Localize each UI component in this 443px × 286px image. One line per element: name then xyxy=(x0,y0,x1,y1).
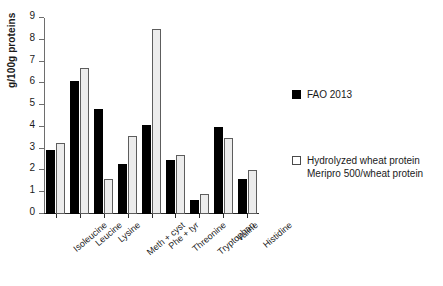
bar xyxy=(238,179,247,214)
bar xyxy=(118,164,127,214)
bar-chart-figure: g/100g proteins 0123456789 IsoleucineLeu… xyxy=(0,0,443,286)
y-tick-label: 2 xyxy=(29,162,35,173)
x-axis-label-7: Valine xyxy=(235,220,260,243)
bar-group xyxy=(163,18,187,214)
y-axis-title: g/100g proteins xyxy=(6,0,17,88)
y-tick-label: 0 xyxy=(29,206,35,217)
y-tick-label: 3 xyxy=(29,141,35,152)
bar xyxy=(128,136,137,214)
bar xyxy=(190,200,199,214)
x-tick-6 xyxy=(199,214,200,218)
y-tick-label: 5 xyxy=(29,97,35,108)
x-tick-0 xyxy=(56,214,57,218)
plot-area: 0123456789 xyxy=(44,18,259,214)
x-tick-4 xyxy=(152,214,153,218)
bar-group xyxy=(187,18,211,214)
x-tick-5 xyxy=(175,214,176,218)
legend-swatch-open-square-icon xyxy=(292,156,301,165)
legend-swatch-filled-square-icon xyxy=(292,90,301,99)
bar xyxy=(56,143,65,214)
x-tick-7 xyxy=(223,214,224,218)
x-axis-label-8: Histidine xyxy=(261,220,294,250)
bar-group xyxy=(68,18,92,214)
bar-group xyxy=(44,18,68,214)
bar xyxy=(200,194,209,214)
y-tick-label: 7 xyxy=(29,54,35,65)
legend-label-line1: FAO 2013 xyxy=(307,88,352,101)
bar-series-container xyxy=(44,18,259,214)
bar-group xyxy=(235,18,259,214)
bar xyxy=(104,179,113,214)
bar xyxy=(176,155,185,214)
bar xyxy=(46,150,55,214)
bar xyxy=(166,160,175,214)
x-tick-3 xyxy=(128,214,129,218)
bar xyxy=(70,81,79,214)
bar-group xyxy=(140,18,164,214)
legend-label-fao-2013: FAO 2013 xyxy=(307,88,352,101)
y-tick-label: 1 xyxy=(29,184,35,195)
x-tick-8 xyxy=(247,214,248,218)
y-tick-label: 4 xyxy=(29,119,35,130)
bar xyxy=(248,170,257,214)
legend-item-hydrolyzed-wheat-protein: Hydrolyzed wheat protein Meripro 500/whe… xyxy=(292,154,423,180)
y-tick-label: 8 xyxy=(29,32,35,43)
bar-group xyxy=(211,18,235,214)
x-tick-2 xyxy=(104,214,105,218)
bar xyxy=(152,29,161,214)
y-tick-label: 9 xyxy=(29,10,35,21)
bar xyxy=(80,68,89,214)
x-tick-1 xyxy=(80,214,81,218)
bar-group xyxy=(116,18,140,214)
legend-label-line2: Meripro 500/wheat protein xyxy=(307,167,423,180)
legend-item-fao-2013: FAO 2013 xyxy=(292,88,352,101)
bar xyxy=(224,138,233,214)
bar xyxy=(214,127,223,214)
bar-group xyxy=(92,18,116,214)
legend-label-line1: Hydrolyzed wheat protein xyxy=(307,154,423,167)
y-tick-label: 6 xyxy=(29,75,35,86)
bar xyxy=(94,109,103,214)
legend-label-hydrolyzed-wheat-protein: Hydrolyzed wheat protein Meripro 500/whe… xyxy=(307,154,423,180)
bar xyxy=(142,125,151,214)
